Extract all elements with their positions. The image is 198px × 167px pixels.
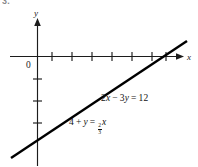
- x-axis-arrow-icon: [176, 53, 184, 60]
- eq2-plus-sign: +: [74, 117, 84, 127]
- figure-root: 3. x y 0 2x−3y=12 4+y=23x: [0, 0, 198, 167]
- eq2-fraction-denominator: 3: [98, 130, 102, 136]
- origin-label: 0: [26, 60, 31, 70]
- eq2-variable-x: x: [102, 117, 106, 127]
- y-axis-label: y: [33, 8, 38, 18]
- eq1-minus-sign: −: [110, 93, 120, 103]
- eq1-equals-sign: =: [129, 93, 139, 103]
- x-axis-label: x: [186, 52, 191, 62]
- eq1-right-hand-side: 12: [139, 93, 149, 103]
- coordinate-plot: x y 0: [0, 0, 198, 167]
- equation-label-1: 2x−3y=12: [101, 93, 148, 103]
- y-axis-arrow-icon: [34, 18, 41, 26]
- eq2-equals-sign: =: [88, 117, 98, 127]
- equation-label-2: 4+y=23x: [69, 117, 106, 136]
